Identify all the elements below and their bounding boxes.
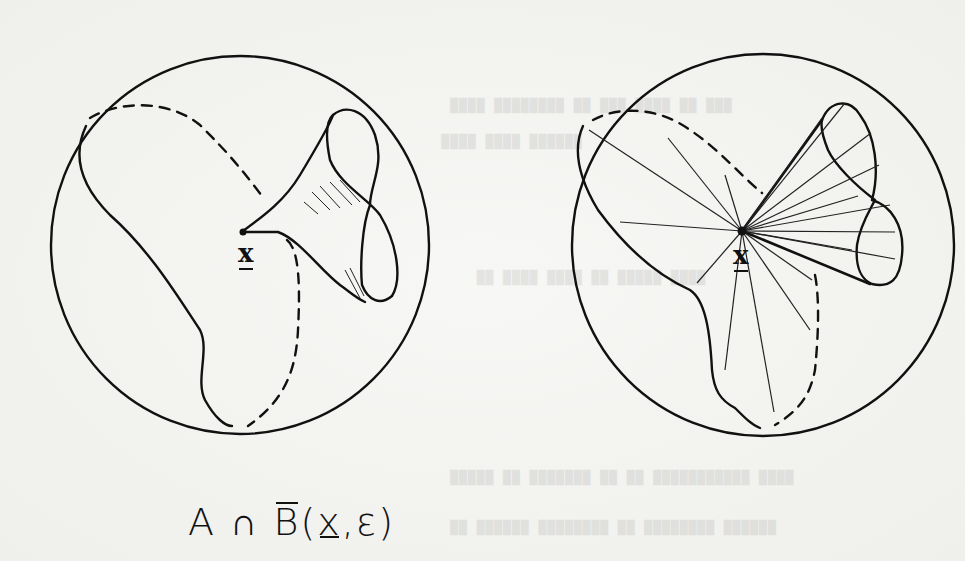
caption-point: x — [317, 500, 342, 544]
set-a-boundary — [79, 126, 232, 426]
funnel-lower-edge — [243, 232, 365, 302]
caption-comma: , — [342, 500, 356, 544]
hidden-edge-dashed — [775, 275, 818, 425]
caption-close-paren: ) — [378, 500, 395, 544]
point-x-label-left: x — [238, 240, 254, 266]
caption-radius: ε — [356, 500, 379, 544]
hidden-edge-dashed — [593, 111, 762, 193]
caption-intersection: ∩ — [230, 500, 259, 544]
scanned-page: ████ ████████ ██ ███ ████ ██ ███ ████ ██… — [0, 0, 965, 561]
caption-open-paren: ( — [300, 500, 317, 544]
figure-diagrams — [0, 0, 965, 561]
caption-set: A — [188, 500, 216, 544]
set-a-boundary — [578, 126, 760, 428]
hidden-edge-dashed — [90, 105, 265, 200]
hidden-edge-dashed — [248, 240, 299, 426]
figure-caption: A ∩ B(x,ε) — [188, 500, 395, 544]
right-panel — [572, 54, 954, 436]
funnel-upper-edge — [243, 115, 333, 231]
caption-closed-ball: B — [274, 500, 301, 544]
point-x-dot — [738, 227, 747, 236]
point-x-label-right: x — [733, 242, 749, 268]
point-x-dot — [240, 229, 247, 236]
